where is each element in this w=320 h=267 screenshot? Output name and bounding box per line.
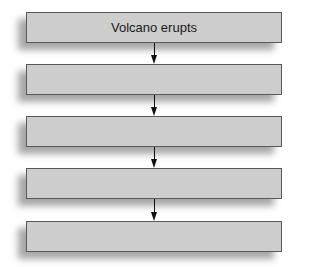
arrow-down-icon <box>152 147 157 168</box>
flow-box-label: Volcano erupts <box>111 20 197 35</box>
flow-box-1: Volcano erupts <box>26 12 282 43</box>
arrow-down-icon <box>152 199 157 221</box>
arrow-down-icon <box>152 95 157 116</box>
arrow-down-icon <box>152 43 157 64</box>
flow-box-2 <box>26 64 282 95</box>
flow-box-5 <box>26 221 282 252</box>
flow-box-4 <box>26 168 282 199</box>
flow-box-3 <box>26 116 282 147</box>
